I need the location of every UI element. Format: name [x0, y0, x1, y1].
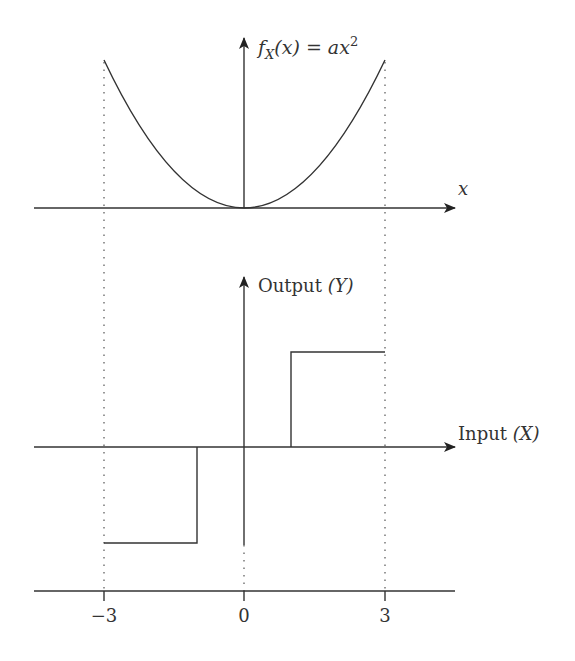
scale-axis [34, 591, 455, 601]
step-high-segment [291, 352, 385, 447]
top-panel [34, 38, 455, 208]
step-low-segment [104, 447, 197, 543]
tick-label-neg3: −3 [91, 605, 118, 626]
output-axis-label: Output (Y) [258, 275, 354, 296]
top-x-axis-label: x [458, 178, 468, 199]
tick-label-pos3: 3 [379, 605, 390, 626]
figure-canvas: fX(x) = ax2 x Output (Y) Input (X) −3 0 … [0, 0, 575, 661]
input-axis-label: Input (X) [458, 423, 540, 444]
top-y-axis-label: fX(x) = ax2 [256, 34, 358, 62]
bottom-panel [34, 277, 455, 545]
tick-label-zero: 0 [238, 605, 249, 626]
